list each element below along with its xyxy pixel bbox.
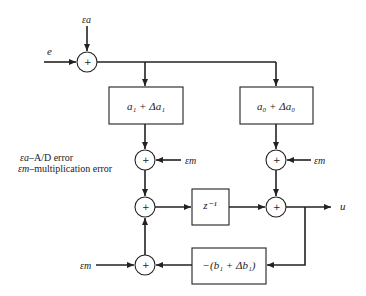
summer-mid-left: + [135,197,155,217]
svg-text:+: + [84,57,92,67]
input-e-label: e [47,45,52,57]
summer-a0-error: + [266,150,286,170]
svg-text:+: + [273,155,281,165]
svg-text:−(b₁ + Δb₁): −(b₁ + Δb₁) [203,259,256,272]
legend-eps-a: εa–A/D error [20,152,74,163]
svg-text:+: + [142,260,150,270]
block-a1: a₁ + Δa₁ [109,87,183,124]
svg-text:+: + [142,202,150,212]
svg-text:+: + [273,202,281,212]
summer-input: + [77,52,97,72]
svg-text:z⁻¹: z⁻¹ [202,199,217,211]
block-a0: a₀ + Δa₀ [240,87,313,124]
eps-a-label: εa [82,14,91,25]
eps-m-label-3: εm [80,260,91,271]
block-diagram: e εa + a₁ + Δa₁ a₀ + Δa₀ + εm + εm [0,0,366,296]
block-b1: −(b₁ + Δb₁) [192,248,266,284]
summer-mid-right: + [266,197,286,217]
svg-text:+: + [142,155,150,165]
svg-text:a₁ + Δa₁: a₁ + Δa₁ [127,100,165,112]
block-delay: z⁻¹ [192,189,229,225]
svg-text:a₀ + Δa₀: a₀ + Δa₀ [257,100,295,112]
summer-a1-error: + [135,150,155,170]
eps-m-label-2: εm [314,155,325,166]
summer-feedback: + [135,255,155,275]
legend: εa–A/D error εm–multiplication error [18,152,113,174]
legend-eps-m: εm–multiplication error [18,163,113,174]
output-u-label: u [340,200,346,212]
eps-m-label-1: εm [185,155,196,166]
